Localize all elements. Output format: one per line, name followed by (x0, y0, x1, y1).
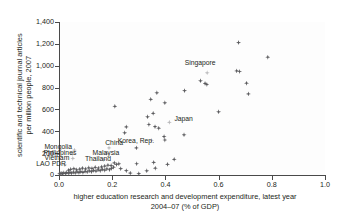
y-tick-label: 800 (42, 84, 54, 91)
y-tick-mark (55, 22, 59, 23)
point-label-lao-pdr: LAO PDR (36, 160, 66, 167)
x-tick-label: 1.0 (310, 181, 340, 188)
point-label-china: China (105, 139, 123, 146)
y-tick-mark (55, 66, 59, 67)
y-tick-label: 1,000 (36, 62, 54, 69)
y-tick-label: 400 (42, 128, 54, 135)
x-axis-title: higher education research and developmen… (40, 192, 330, 212)
point-label-korea-rep: Korea, Rep. (118, 137, 154, 144)
y-tick-label: 1,200 (36, 40, 54, 47)
x-tick-label: 0.0 (44, 181, 74, 188)
x-axis-title-line1: higher education research and developmen… (40, 192, 330, 202)
x-axis-line (59, 175, 326, 176)
x-tick-label: 0.6 (204, 181, 234, 188)
y-tick-mark (55, 44, 59, 45)
point-label-thailand: Thailand (85, 155, 111, 162)
y-tick-label: 600 (42, 106, 54, 113)
x-tick-label: 0.2 (97, 181, 127, 188)
y-tick-mark (55, 88, 59, 89)
y-axis-title: scientific and technical journal article… (15, 15, 33, 175)
x-tick-label: 0.4 (150, 181, 180, 188)
point-label-japan: Japan (174, 115, 193, 122)
y-axis-title-line1: scientific and technical journal article… (15, 15, 24, 175)
y-axis-title-line2: per million people, 2007 (24, 15, 33, 175)
y-tick-mark (55, 131, 59, 132)
point-label-singapore: Singapore (185, 59, 216, 66)
x-axis-title-line2: 2004–07 (% of GDP) (40, 202, 330, 212)
y-tick-label: 0 (50, 171, 54, 178)
scatter-chart-figure: 02004006008001,0001,2001,400 0.00.20.40.… (0, 0, 343, 223)
y-tick-label: 1,400 (36, 18, 54, 25)
y-tick-mark (55, 109, 59, 110)
x-tick-label: 0.8 (257, 181, 287, 188)
